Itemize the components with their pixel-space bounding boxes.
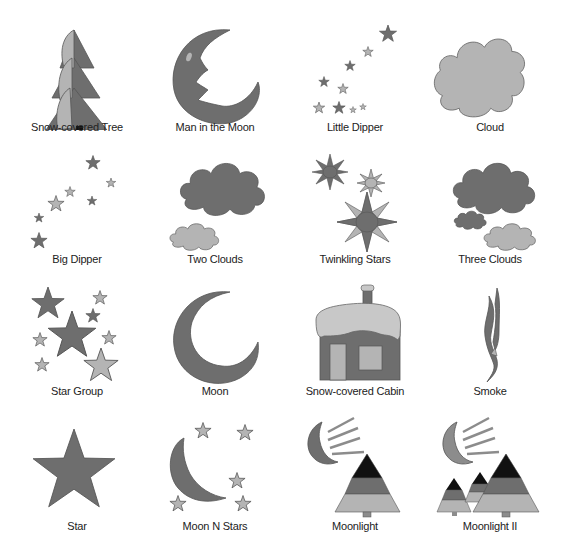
three-clouds-icon: [425, 148, 555, 258]
snow-covered-tree-icon: [12, 20, 142, 130]
item-label: Cloud: [425, 121, 555, 133]
clipart-moon-n-stars[interactable]: Moon N Stars: [150, 414, 280, 544]
clipart-star[interactable]: Star: [12, 414, 142, 544]
item-label: Two Clouds: [150, 253, 280, 265]
item-label: Moon N Stars: [150, 520, 280, 532]
little-dipper-icon: [290, 20, 420, 130]
item-label: Three Clouds: [425, 253, 555, 265]
item-label: Star: [12, 520, 142, 532]
item-label: Twinkling Stars: [290, 253, 420, 265]
clipart-big-dipper[interactable]: Big Dipper: [12, 148, 142, 278]
clipart-star-group[interactable]: Star Group: [12, 280, 142, 410]
moon-icon: [150, 280, 280, 390]
clipart-moonlight[interactable]: Moonlight: [290, 414, 420, 544]
item-label: Man in the Moon: [150, 121, 280, 133]
moon-n-stars-icon: [150, 414, 280, 524]
item-label: Moon: [150, 385, 280, 397]
clipart-twinkling-stars[interactable]: Twinkling Stars: [290, 148, 420, 278]
item-label: Moonlight II: [425, 520, 555, 532]
item-label: Snow-covered Cabin: [290, 385, 420, 397]
big-dipper-icon: [12, 148, 142, 258]
smoke-icon: [425, 280, 555, 390]
moonlight-icon: [290, 414, 420, 524]
item-label: Big Dipper: [12, 253, 142, 265]
star-group-icon: [12, 280, 142, 390]
item-label: Smoke: [425, 385, 555, 397]
moonlight-ii-icon: [425, 414, 555, 524]
clipart-little-dipper[interactable]: Little Dipper: [290, 20, 420, 150]
item-label: Moonlight: [290, 520, 420, 532]
cloud-icon: [425, 20, 555, 130]
clipart-snow-covered-tree[interactable]: Snow-covered Tree: [12, 20, 142, 150]
clipart-snow-covered-cabin[interactable]: Snow-covered Cabin: [290, 280, 420, 410]
man-in-the-moon-icon: [150, 20, 280, 130]
clipart-two-clouds[interactable]: Two Clouds: [150, 148, 280, 278]
clipart-three-clouds[interactable]: Three Clouds: [425, 148, 555, 278]
item-label: Little Dipper: [290, 121, 420, 133]
clipart-moonlight-ii[interactable]: Moonlight II: [425, 414, 555, 544]
clipart-cloud[interactable]: Cloud: [425, 20, 555, 150]
clipart-man-in-the-moon[interactable]: Man in the Moon: [150, 20, 280, 150]
snow-covered-cabin-icon: [290, 280, 420, 390]
item-label: Snow-covered Tree: [12, 121, 142, 133]
clipart-smoke[interactable]: Smoke: [425, 280, 555, 410]
clipart-moon[interactable]: Moon: [150, 280, 280, 410]
two-clouds-icon: [150, 148, 280, 258]
twinkling-stars-icon: [290, 148, 420, 258]
star-icon: [12, 414, 142, 524]
item-label: Star Group: [12, 385, 142, 397]
